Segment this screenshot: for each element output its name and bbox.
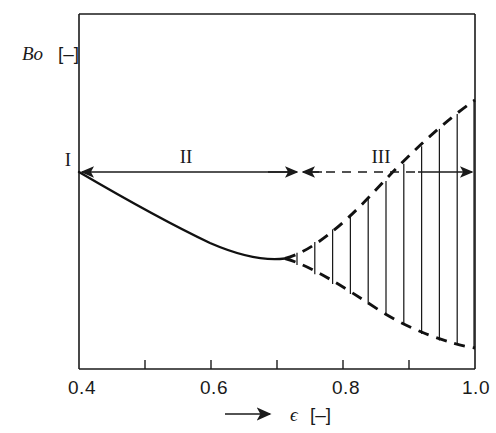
x-tick-label-4: 0.8 bbox=[332, 377, 360, 398]
bifurcation-hatching bbox=[297, 100, 474, 348]
chart-svg: 0.4 0.6 0.8 1.0 Bo [–] ϵ [–] bbox=[0, 0, 496, 433]
plot-frame bbox=[79, 14, 475, 369]
y-axis-label-unit: [–] bbox=[58, 43, 79, 64]
x-axis-label-unit: [–] bbox=[310, 404, 331, 425]
y-axis-label-symbol: Bo bbox=[22, 43, 43, 64]
x-axis-ticks bbox=[145, 360, 409, 369]
x-tick-label-0: 0.4 bbox=[68, 377, 96, 398]
region-label-iii: III bbox=[372, 146, 391, 167]
x-axis-label-symbol: ϵ bbox=[290, 404, 299, 425]
chart-figure: 0.4 0.6 0.8 1.0 Bo [–] ϵ [–] bbox=[0, 0, 496, 433]
region-label-i: I bbox=[65, 149, 71, 170]
curve-stable-branch bbox=[79, 172, 285, 259]
curve-upper-branch bbox=[285, 100, 475, 259]
x-tick-label-2: 0.6 bbox=[200, 377, 228, 398]
region-label-ii: II bbox=[180, 146, 193, 167]
x-tick-label-6: 1.0 bbox=[462, 377, 490, 398]
curve-lower-branch bbox=[285, 259, 475, 349]
